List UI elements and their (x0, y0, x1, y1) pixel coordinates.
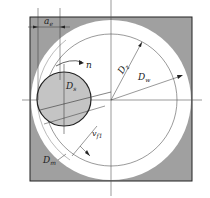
grinding-diagram: ae n Ds Dz Dw vf1 Dm (0, 0, 210, 198)
n-label: n (86, 60, 92, 70)
